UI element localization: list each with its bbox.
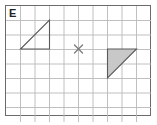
grid-and-shapes-canvas	[0, 0, 157, 125]
panel-letter-label: E	[9, 7, 16, 19]
geometry-figure-panel: E	[0, 0, 157, 125]
grid-lines-group	[6, 6, 151, 122]
